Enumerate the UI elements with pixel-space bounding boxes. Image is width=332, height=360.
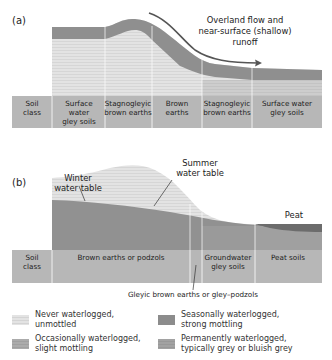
panel-a-col-2: Stagnogleyicbrown earths [104,99,152,117]
soil-diagram: (a) Soilclass Surfacewatergley soils Sta… [0,0,332,360]
panel-b-col-4: Peat soils [271,253,305,262]
gleyic-callout: Gleyic brown earths or gley–podzols [128,290,258,299]
summer-water-table-label: Summerwater table [176,158,224,178]
panel-b-label: (b) [12,177,26,188]
panel-a-soil-class-header: Soilclass [23,99,41,117]
panel-a-col-4: Stagnogleyicbrown earths [203,99,251,117]
peat-label: Peat [285,210,304,220]
panel-b-soil-class-header: Soilclass [23,253,41,271]
panel-b: (b) Soilclass Brown earths or podzols Gr… [12,158,322,299]
panel-b-col-3: Groundwatergley soils [205,253,252,271]
panel-a-label: (a) [12,15,26,26]
runoff-annotation: Overland flow andnear-surface (shallow)r… [198,15,291,47]
panel-a: (a) Soilclass Surfacewatergley soils Sta… [12,13,322,128]
arrow-head-icon [255,60,262,67]
panel-b-col-1: Brown earths or podzols [77,253,164,262]
panel-a-col-3: Brownearths [166,99,189,117]
